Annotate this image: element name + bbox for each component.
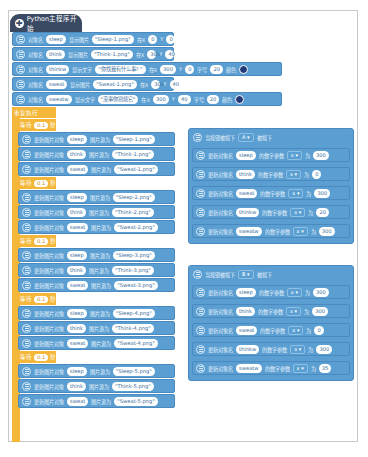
update-image-block[interactable]: 更新图片对象sweat图片源为"Sweat-5.png" — [18, 394, 175, 408]
wait-seconds-field[interactable]: 0.1 — [34, 122, 48, 129]
value-field[interactable]: "Think-1.png" — [91, 50, 133, 59]
collapse-icon[interactable] — [196, 208, 205, 217]
collapse-icon[interactable] — [193, 270, 202, 279]
collapse-icon[interactable] — [16, 80, 25, 89]
collapse-icon[interactable] — [22, 309, 31, 318]
image-source-field[interactable]: "Sleep-3.png" — [113, 251, 155, 260]
y-field[interactable]: 0 — [166, 35, 175, 44]
image-source-field[interactable]: "Sweat-4.png" — [114, 339, 157, 348]
collapse-icon[interactable] — [22, 208, 31, 217]
value-field[interactable]: 300 — [313, 151, 329, 160]
update-number-param-block[interactable]: 更新对象名thinkw的数字参数x ▾为300 — [192, 342, 350, 356]
object-name-field[interactable]: sweat — [67, 339, 88, 348]
object-name-field[interactable]: sleep — [46, 35, 66, 44]
value-field[interactable]: "没事你别烦它" — [98, 95, 139, 104]
value-field[interactable]: 0 — [314, 326, 323, 335]
image-source-field[interactable]: "Think-2.png" — [112, 208, 154, 217]
y-field[interactable]: 40 — [165, 50, 174, 59]
collapse-icon[interactable] — [196, 326, 205, 335]
image-source-field[interactable]: "Think-3.png" — [112, 266, 154, 275]
collapse-icon[interactable] — [196, 227, 205, 236]
param-dropdown[interactable]: x ▾ — [287, 288, 302, 297]
object-name-field[interactable]: sleep — [67, 193, 87, 202]
object-name-field[interactable]: sweat — [236, 326, 257, 335]
update-number-param-block[interactable]: 更新对象名think的数字参数x ▾为0 — [192, 167, 350, 181]
object-name-field[interactable]: think — [46, 50, 65, 59]
value-field[interactable]: 300 — [314, 189, 330, 198]
object-name-field[interactable]: thinkw — [236, 345, 259, 354]
update-image-block[interactable]: 更新图片对象think图片源为"Think-1.png" — [18, 147, 175, 161]
object-name-field[interactable]: think — [67, 266, 86, 275]
update-image-block[interactable]: 更新图片对象sweat图片源为"Sweat-1.png" — [18, 162, 175, 176]
object-name-field[interactable]: sweatw — [236, 227, 262, 236]
update-number-param-block[interactable]: 更新对象名sweat的数字参数x ▾为300 — [192, 186, 350, 200]
update-image-block[interactable]: 更新图片对象think图片源为"Think-4.png" — [18, 321, 175, 335]
image-source-field[interactable]: "Sweat-5.png" — [114, 397, 157, 406]
update-number-param-block[interactable]: 更新对象名sweatw的数字参数x ▾为300 — [192, 224, 350, 238]
update-number-param-block[interactable]: 更新对象名sleep的数字参数x ▾为300 — [192, 285, 350, 299]
collapse-icon[interactable] — [16, 65, 25, 74]
image-source-field[interactable]: "Think-5.png" — [112, 382, 154, 391]
collapse-icon[interactable] — [196, 170, 205, 179]
update-number-param-block[interactable]: 更新对象名think的数字参数x ▾为300 — [192, 304, 350, 318]
update-number-param-block[interactable]: 更新对象名sweat的数字参数x ▾为0 — [192, 323, 350, 337]
param-dropdown[interactable]: x ▾ — [286, 170, 301, 179]
collapse-icon[interactable] — [193, 133, 202, 142]
object-name-field[interactable]: sleep — [67, 309, 87, 318]
update-image-block[interactable]: 更新图片对象sweat图片源为"Sweat-3.png" — [18, 278, 175, 292]
collapse-icon[interactable] — [22, 397, 31, 406]
collapse-icon[interactable] — [22, 367, 31, 376]
value-field[interactable]: 0 — [312, 170, 321, 179]
update-image-block[interactable]: 更新图片对象sleep图片源为"Sleep-2.png" — [18, 190, 175, 204]
object-name-field[interactable]: sweat — [67, 397, 88, 406]
wait-seconds-field[interactable]: 0.1 — [34, 354, 48, 361]
param-dropdown[interactable]: x ▾ — [288, 189, 303, 198]
update-image-block[interactable]: 更新图片对象think图片源为"Think-2.png" — [18, 205, 175, 219]
image-source-field[interactable]: "Think-1.png" — [112, 150, 154, 159]
image-source-field[interactable]: "Sweat-2.png" — [114, 223, 157, 232]
image-source-field[interactable]: "Sleep-5.png" — [113, 367, 155, 376]
update-image-block[interactable]: 更新图片对象sweat图片源为"Sweat-2.png" — [18, 220, 175, 234]
object-name-field[interactable]: sleep — [236, 151, 256, 160]
collapse-icon[interactable] — [196, 288, 205, 297]
y-field[interactable]: 0 — [185, 65, 194, 74]
collapse-icon[interactable] — [22, 135, 31, 144]
object-name-field[interactable]: think — [67, 150, 86, 159]
image-source-field[interactable]: "Sleep-4.png" — [113, 309, 155, 318]
image-source-field[interactable]: "Sleep-2.png" — [113, 193, 155, 202]
collapse-icon[interactable] — [22, 281, 31, 290]
init-block[interactable]: 对象名think显示图片"Think-1.png"在X300Y40 — [12, 47, 174, 61]
font-size-field[interactable]: 20 — [207, 95, 220, 104]
object-name-field[interactable]: sweatw — [236, 364, 262, 373]
x-field[interactable]: 300 — [147, 50, 156, 59]
key-dropdown[interactable]: B ▾ — [238, 270, 254, 279]
param-dropdown[interactable]: x ▾ — [287, 151, 302, 160]
init-block[interactable]: 对象名sleep显示图片"Sleep-1.png"在X0Y0 — [12, 32, 174, 46]
collapse-icon[interactable] — [22, 339, 31, 348]
update-image-block[interactable]: 更新图片对象sleep图片源为"Sleep-5.png" — [18, 364, 175, 378]
object-name-field[interactable]: sweatw — [46, 95, 72, 104]
collapse-icon[interactable] — [22, 382, 31, 391]
update-image-block[interactable]: 更新图片对象sweat图片源为"Sweat-4.png" — [18, 336, 175, 350]
update-image-block[interactable]: 更新图片对象sleep图片源为"Sleep-3.png" — [18, 248, 175, 262]
init-block[interactable]: 对象名sweatw显示文字"没事你别烦它"在X300Y40字号20颜色 — [12, 92, 282, 106]
object-name-field[interactable]: think — [67, 208, 86, 217]
value-field[interactable]: 300 — [312, 307, 328, 316]
collapse-icon[interactable] — [22, 223, 31, 232]
update-image-block[interactable]: 更新图片对象think图片源为"Think-3.png" — [18, 263, 175, 277]
collapse-icon[interactable] — [22, 193, 31, 202]
param-dropdown[interactable]: x ▾ — [290, 345, 305, 354]
collapse-icon[interactable] — [16, 50, 25, 59]
x-field[interactable]: 300 — [151, 80, 160, 89]
x-field[interactable]: 300 — [160, 65, 176, 74]
image-source-field[interactable]: "Sleep-1.png" — [113, 135, 155, 144]
object-name-field[interactable]: thinkw — [46, 65, 69, 74]
collapse-icon[interactable] — [196, 345, 205, 354]
wait-seconds-field[interactable]: 0.1 — [34, 180, 48, 187]
collapse-icon[interactable] — [196, 151, 205, 160]
value-field[interactable]: 35 — [319, 364, 332, 373]
key-dropdown[interactable]: A ▾ — [238, 133, 254, 142]
object-name-field[interactable]: sleep — [236, 288, 256, 297]
object-name-field[interactable]: think — [236, 307, 255, 316]
object-name-field[interactable]: thinkw — [236, 208, 259, 217]
